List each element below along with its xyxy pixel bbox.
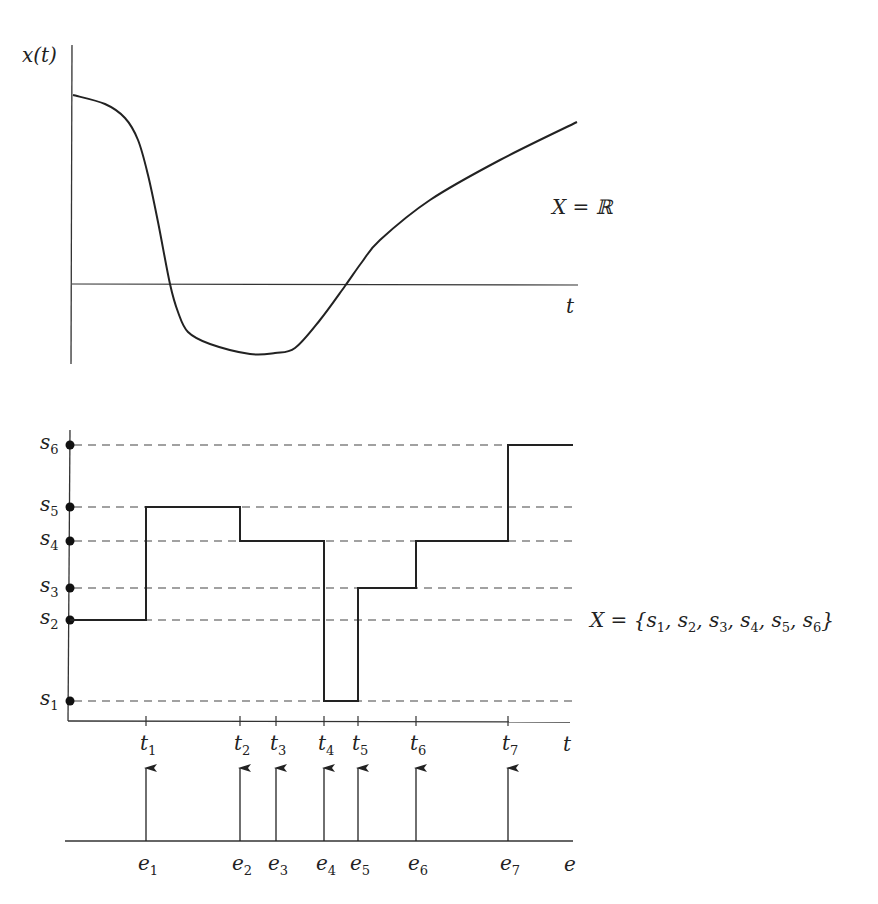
x-axis: [72, 284, 578, 285]
state-label: s1: [40, 686, 59, 713]
x-axis-label: t: [566, 294, 575, 318]
time-label: t7: [502, 731, 518, 758]
event-label: e7: [500, 851, 520, 878]
state-space-label: X = ℝ: [550, 195, 614, 219]
y-axis-label: x(t): [22, 43, 57, 67]
state-label: s4: [40, 526, 59, 553]
discrete-plot: s1s2s3s4s5s6 t1t2t3t4t5t6t7 t X = {s1, s…: [40, 430, 834, 758]
state-dot: [66, 503, 75, 512]
event-label: e6: [408, 851, 428, 878]
state-label: s5: [40, 492, 59, 519]
state-label: s2: [40, 605, 59, 632]
event-label: e3: [268, 851, 288, 878]
continuous-plot: x(t) t X = ℝ: [22, 43, 614, 364]
time-label: t4: [318, 731, 334, 758]
time-label: t3: [270, 731, 286, 758]
event-label: e5: [350, 851, 370, 878]
x-axis-label: t: [563, 732, 572, 756]
state-curve: [73, 95, 577, 355]
state-dot: [66, 584, 75, 593]
state-trajectory: [70, 445, 573, 701]
state-label: s3: [40, 573, 59, 600]
time-label: t5: [352, 731, 368, 758]
time-label: t2: [234, 731, 250, 758]
state-dot: [66, 537, 75, 546]
event-sequence: e1e2e3e4e5e6e7 e: [65, 768, 576, 878]
y-axis: [68, 430, 70, 721]
event-axis-label: e: [564, 852, 576, 876]
state-dot: [66, 697, 75, 706]
state-label: s6: [40, 430, 59, 457]
state-dot: [66, 441, 75, 450]
time-label: t6: [410, 731, 426, 758]
time-label: t1: [140, 731, 156, 758]
y-axis: [71, 45, 72, 364]
event-label: e2: [232, 851, 252, 878]
figure: x(t) t X = ℝ s1s2s3s4s5s6 t1t2t3t4t5t6t7…: [0, 0, 878, 904]
x-axis: [68, 721, 570, 722]
event-label: e4: [316, 851, 336, 878]
event-label: e1: [138, 851, 158, 878]
state-space-label: X = {s1, s2, s3, s4, s5, s6}: [588, 608, 834, 635]
